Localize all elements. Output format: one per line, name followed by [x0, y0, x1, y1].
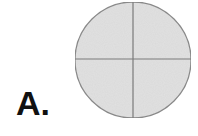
figure-canvas: A.: [0, 0, 198, 136]
option-label: A.: [16, 86, 50, 120]
